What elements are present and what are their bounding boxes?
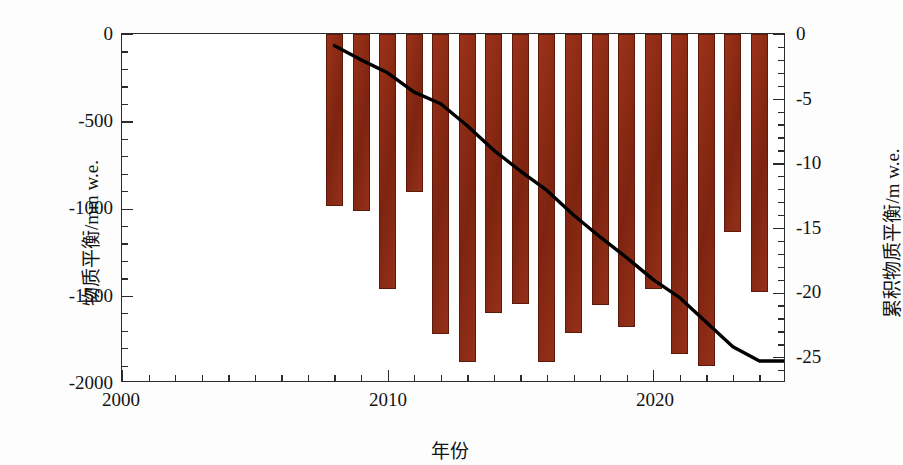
y-axis-right-minor-tick xyxy=(778,47,784,48)
x-axis-minor-tick xyxy=(255,375,256,381)
y-axis-left-tick-label-0: 0 xyxy=(55,24,113,43)
y-axis-left-tick-label-3: -1500 xyxy=(35,286,113,305)
x-axis-minor-tick xyxy=(281,375,282,381)
y-axis-right-minor-tick xyxy=(778,280,784,281)
y-axis-right-tick-label-0: 0 xyxy=(796,24,806,43)
y-axis-right-minor-tick xyxy=(778,267,784,268)
y-axis-right-tick-label-4: -20 xyxy=(796,282,821,301)
y-axis-right-minor-tick xyxy=(778,137,784,138)
cumulative-balance-line xyxy=(122,34,785,382)
y-axis-right-minor-tick xyxy=(778,189,784,190)
y-axis-left-minor-tick xyxy=(122,86,128,87)
y-axis-right-major-tick xyxy=(773,357,784,358)
y-axis-left-minor-tick xyxy=(122,331,128,332)
x-axis-minor-tick xyxy=(547,375,548,381)
y-axis-left-minor-tick xyxy=(122,104,128,105)
y-axis-right-minor-tick xyxy=(778,215,784,216)
y-axis-right-minor-tick xyxy=(778,254,784,255)
x-axis-minor-tick xyxy=(228,375,229,381)
x-axis-major-tick xyxy=(653,370,654,381)
y-axis-right-title: 累积物质平衡/m w.e. xyxy=(883,148,902,317)
y-axis-left-major-tick xyxy=(122,209,133,210)
y-axis-left-major-tick xyxy=(122,34,133,35)
x-axis-minor-tick xyxy=(600,375,601,381)
y-axis-left-tick-label-2: -1000 xyxy=(35,198,113,217)
y-axis-right-minor-tick xyxy=(778,305,784,306)
x-axis-minor-tick xyxy=(467,375,468,381)
y-axis-left-major-tick xyxy=(122,296,133,297)
y-axis-right-minor-tick xyxy=(778,241,784,242)
y-axis-left-minor-tick xyxy=(122,69,128,70)
y-axis-left-minor-tick xyxy=(122,51,128,52)
y-axis-right-major-tick xyxy=(773,34,784,35)
y-axis-left-minor-tick xyxy=(122,243,128,244)
x-axis-minor-tick xyxy=(441,375,442,381)
y-axis-right-minor-tick xyxy=(778,60,784,61)
y-axis-right-minor-tick xyxy=(778,318,784,319)
plot-area xyxy=(121,33,785,382)
y-axis-right-tick-label-1: -5 xyxy=(796,89,812,108)
y-axis-left-minor-tick xyxy=(122,191,128,192)
x-axis-minor-tick xyxy=(706,375,707,381)
y-axis-right-minor-tick xyxy=(778,202,784,203)
y-axis-left-tick-label-1: -500 xyxy=(45,111,113,130)
y-axis-left-minor-tick xyxy=(122,348,128,349)
y-axis-left-minor-tick xyxy=(122,226,128,227)
x-axis-major-tick xyxy=(388,370,389,381)
y-axis-right-major-tick xyxy=(773,293,784,294)
x-axis-minor-tick xyxy=(175,375,176,381)
x-axis-minor-tick xyxy=(361,375,362,381)
x-axis-minor-tick xyxy=(202,375,203,381)
x-axis-minor-tick xyxy=(520,375,521,381)
x-axis-minor-tick xyxy=(308,375,309,381)
y-axis-right-minor-tick xyxy=(778,344,784,345)
x-axis-minor-tick xyxy=(759,375,760,381)
x-axis-minor-tick xyxy=(680,375,681,381)
x-axis-tick-label-1: 2010 xyxy=(343,390,433,409)
y-axis-right-minor-tick xyxy=(778,112,784,113)
x-axis-minor-tick xyxy=(574,375,575,381)
y-axis-right-minor-tick xyxy=(778,124,784,125)
y-axis-right-tick-label-5: -25 xyxy=(796,347,821,366)
y-axis-left-title: 物质平衡/mm w.e. xyxy=(82,159,101,305)
x-axis-major-tick xyxy=(122,370,123,381)
y-axis-right-minor-tick xyxy=(778,370,784,371)
y-axis-left-minor-tick xyxy=(122,174,128,175)
y-axis-left-major-tick xyxy=(122,121,133,122)
y-axis-right-tick-label-2: -10 xyxy=(796,153,821,172)
y-axis-right-minor-tick xyxy=(778,176,784,177)
y-axis-left-minor-tick xyxy=(122,139,128,140)
cumulative-line-path xyxy=(334,46,785,361)
x-axis-minor-tick xyxy=(414,375,415,381)
y-axis-right-major-tick xyxy=(773,228,784,229)
y-axis-right-minor-tick xyxy=(778,73,784,74)
x-axis-title: 年份 xyxy=(0,442,899,461)
y-axis-right-minor-tick xyxy=(778,150,784,151)
x-axis-title-text: 年份 xyxy=(431,441,469,462)
x-axis-minor-tick xyxy=(149,375,150,381)
x-axis-tick-label-0: 2000 xyxy=(76,390,166,409)
y-axis-left-minor-tick xyxy=(122,156,128,157)
x-axis-minor-tick xyxy=(494,375,495,381)
y-axis-left-minor-tick xyxy=(122,278,128,279)
x-axis-minor-tick xyxy=(334,375,335,381)
y-axis-left-minor-tick xyxy=(122,366,128,367)
x-axis-minor-tick xyxy=(627,375,628,381)
y-axis-left-minor-tick xyxy=(122,261,128,262)
y-axis-right-major-tick xyxy=(773,163,784,164)
x-axis-minor-tick xyxy=(733,375,734,381)
y-axis-right-major-tick xyxy=(773,99,784,100)
y-axis-right-minor-tick xyxy=(778,86,784,87)
y-axis-left-minor-tick xyxy=(122,313,128,314)
y-axis-right-tick-label-3: -15 xyxy=(796,218,821,237)
y-axis-right-minor-tick xyxy=(778,331,784,332)
x-axis-tick-label-2: 2020 xyxy=(610,390,700,409)
